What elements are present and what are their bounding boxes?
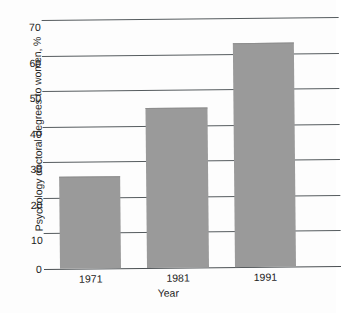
gridline-50	[42, 88, 339, 92]
y-axis-tick-label-70: 70	[29, 22, 41, 33]
gridline-60	[42, 53, 339, 57]
bar-1971	[59, 176, 121, 269]
bar-1981	[146, 107, 209, 268]
y-axis-tick-label-10: 10	[31, 235, 43, 246]
y-axis-tick-label-50: 50	[30, 93, 42, 104]
x-axis-tick-label-1971: 1971	[60, 272, 121, 285]
x-axis-tick-label-1991: 1991	[235, 271, 296, 284]
x-axis-tick-label-1981: 1981	[147, 271, 208, 284]
y-axis-tick-label-30: 30	[30, 164, 42, 175]
x-axis-title: Year	[0, 285, 336, 300]
gridline-70	[42, 17, 339, 21]
bar-1991	[233, 42, 296, 267]
plot-area: 10203040506070197119811991	[45, 17, 309, 269]
y-axis-zero-label: 0	[36, 263, 42, 275]
y-axis-tick-label-40: 40	[30, 129, 42, 140]
y-axis-tick-label-20: 20	[31, 200, 43, 211]
y-axis-tick-label-60: 60	[29, 58, 41, 69]
